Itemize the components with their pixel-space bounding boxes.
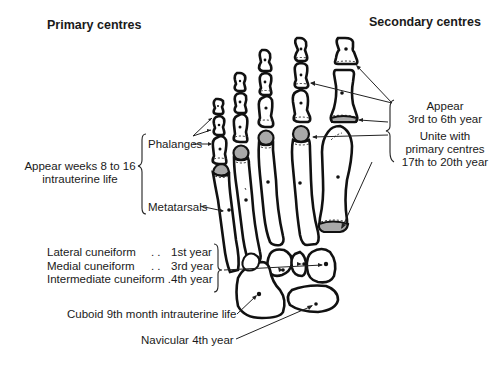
- unite-line3: 17th to 20th year: [395, 156, 495, 169]
- cuneiform-age: 1st year: [171, 246, 213, 260]
- appear-weeks-line2: intrauterine life: [20, 173, 140, 186]
- appear-weeks-line1: Appear weeks 8 to 16: [20, 160, 140, 173]
- tarsals: [237, 249, 339, 318]
- cuneiform-name: Medial cuneiform: [47, 260, 138, 274]
- cuboid-label: Cuboid 9th month intrauterine life: [67, 308, 236, 321]
- right-brace-secondary: [386, 100, 394, 162]
- unite-line2: primary centres: [395, 143, 495, 156]
- unite-label: Unite with primary centres 17th to 20th …: [395, 130, 495, 169]
- cuneiform-row: Intermediate cuneiform . 4th year: [47, 273, 213, 287]
- left-brace-cuneiforms: [214, 244, 222, 292]
- cuneiform-row: Medial cuneiform . . 3rd year: [47, 260, 213, 274]
- navicular-label: Navicular 4th year: [141, 334, 234, 347]
- cuneiforms-table: Lateral cuneiform . . 1st year Medial cu…: [47, 246, 213, 287]
- cuneiform-name: Intermediate cuneiform .: [47, 273, 171, 287]
- cuneiform-dots: . .: [138, 260, 171, 274]
- cuneiform-age: 3rd year: [171, 260, 213, 274]
- toe-3: [259, 50, 284, 245]
- cuneiform-row: Lateral cuneiform . . 1st year: [47, 246, 213, 260]
- secondary-appear-line1: Appear: [395, 100, 495, 113]
- secondary-appear-label: Appear 3rd to 6th year: [395, 100, 495, 126]
- toe-4: [234, 73, 261, 263]
- toe-2: [292, 38, 319, 245]
- cuneiform-name-text: Intermediate cuneiform: [47, 273, 165, 285]
- cuneiform-age: 4th year: [171, 273, 213, 287]
- cuneiform-name: Lateral cuneiform: [47, 246, 138, 260]
- big-toe: [319, 38, 357, 232]
- phalanges-label: Phalanges: [148, 138, 202, 151]
- unite-line1: Unite with: [395, 130, 495, 143]
- appear-weeks-label: Appear weeks 8 to 16 intrauterine life: [20, 160, 140, 186]
- cuneiform-dots: . .: [138, 246, 171, 260]
- metatarsals-label: Metatarsals: [148, 201, 207, 214]
- secondary-appear-line2: 3rd to 6th year: [395, 113, 495, 126]
